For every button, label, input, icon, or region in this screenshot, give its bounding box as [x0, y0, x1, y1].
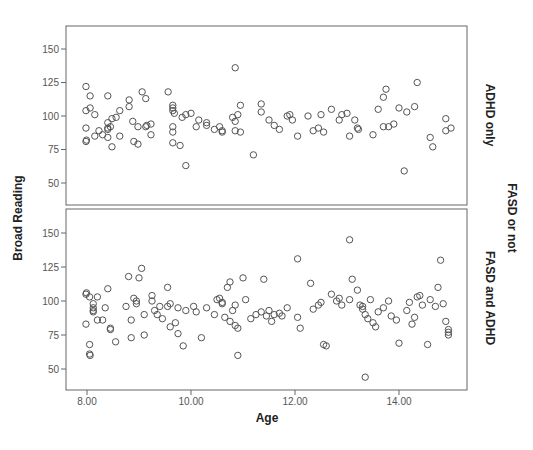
- panel-fasd-and-adhd: 5075100125150 FASD and ADHD: [42, 209, 497, 390]
- panel-label-adhd-only: ADHD only: [483, 84, 497, 147]
- y-tick-label: 50: [48, 178, 60, 189]
- panel-adhd-only: 5075100125150 ADHD only: [42, 26, 497, 205]
- y-tick-label: 75: [48, 144, 60, 155]
- x-tick-label: 10.00: [178, 396, 203, 407]
- x-tick-label: 14.00: [386, 396, 411, 407]
- y-axis-title: Broad Reading: [11, 175, 25, 260]
- x-axis: 8.0010.0012.0014.00: [77, 390, 412, 407]
- facet-title: FASD or not: [505, 183, 519, 252]
- y-axis-bottom: 5075100125150: [42, 228, 66, 375]
- x-axis-title: Age: [256, 411, 279, 425]
- y-tick-label: 150: [42, 228, 59, 239]
- faceted-scatter-chart: 5075100125150 ADHD only 5075100125150 FA…: [0, 0, 533, 450]
- y-axis-top: 5075100125150: [42, 44, 66, 189]
- y-tick-label: 125: [42, 77, 59, 88]
- panel-frame: [66, 209, 467, 390]
- x-tick-label: 12.00: [282, 396, 307, 407]
- y-tick-label: 50: [48, 364, 60, 375]
- y-tick-label: 150: [42, 44, 59, 55]
- y-tick-label: 125: [42, 262, 59, 273]
- panel-label-fasd-and-adhd: FASD and ADHD: [483, 251, 497, 346]
- y-tick-label: 100: [42, 296, 59, 307]
- y-tick-label: 75: [48, 330, 60, 341]
- y-tick-label: 100: [42, 111, 59, 122]
- x-tick-label: 8.00: [77, 396, 97, 407]
